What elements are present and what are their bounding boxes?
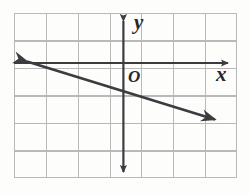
coordinate-plane-figure: y x O [0,0,249,195]
coordinate-plane-svg [0,0,249,195]
y-axis-label: y [134,12,143,33]
x-axis-label: x [216,64,227,85]
origin-label: O [128,68,140,85]
